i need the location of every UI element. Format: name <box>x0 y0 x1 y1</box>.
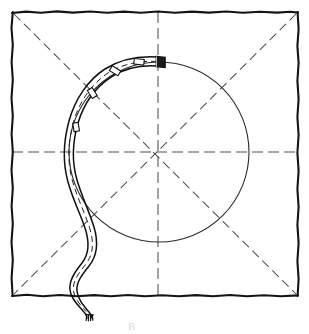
faint-caption-label: B <box>128 320 188 330</box>
technical-drawing-canvas <box>0 0 309 334</box>
tube-end-cap-body <box>156 56 165 67</box>
tube-end-cap <box>156 56 165 67</box>
frame-edge-left <box>12 12 13 296</box>
clamp-mark-1 <box>134 58 145 65</box>
frame-edge-bottom <box>12 295 298 297</box>
clamp-mark-4 <box>73 122 80 131</box>
frame-edge-right <box>297 12 298 296</box>
drawing-background <box>0 0 309 334</box>
figure-root: B <box>0 0 309 334</box>
